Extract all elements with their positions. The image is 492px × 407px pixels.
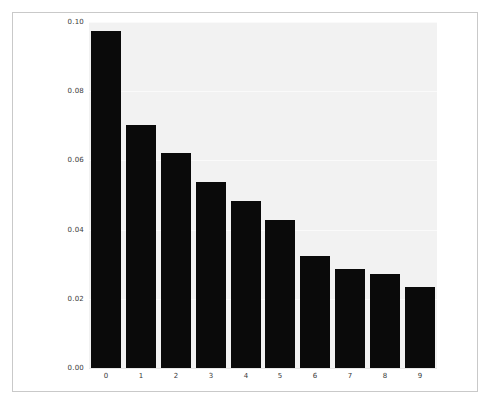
x-tick-label: 2 <box>161 372 191 380</box>
y-tick-label: 0.00 <box>68 364 84 372</box>
y-tick-label: 0.06 <box>68 156 84 164</box>
y-tick-label: 0.02 <box>68 295 84 303</box>
x-tick-label: 5 <box>265 372 295 380</box>
x-axis-spine <box>89 368 437 369</box>
bars-layer <box>89 22 437 368</box>
y-tick-label: 0.08 <box>68 87 84 95</box>
x-tick-label: 7 <box>335 372 365 380</box>
bar <box>265 220 295 368</box>
y-tick-label: 0.04 <box>68 226 84 234</box>
y-axis-tick-labels: 0.000.020.040.060.080.10 <box>56 22 84 368</box>
bar <box>126 125 156 368</box>
bar <box>300 256 330 368</box>
x-tick-label: 9 <box>405 372 435 380</box>
x-tick-label: 0 <box>91 372 121 380</box>
bar <box>231 201 261 368</box>
bar <box>196 182 226 368</box>
bar <box>370 274 400 368</box>
figure-root: 0.000.020.040.060.080.10 0123456789 <box>0 0 492 407</box>
plot-area <box>89 22 437 368</box>
x-tick-label: 1 <box>126 372 156 380</box>
bar <box>405 287 435 368</box>
x-axis-tick-labels: 0123456789 <box>89 370 437 384</box>
x-tick-label: 4 <box>231 372 261 380</box>
bar <box>335 269 365 368</box>
x-tick-label: 8 <box>370 372 400 380</box>
y-tick-label: 0.10 <box>68 18 84 26</box>
bar <box>161 153 191 368</box>
bar <box>91 31 121 368</box>
x-tick-label: 6 <box>300 372 330 380</box>
x-tick-label: 3 <box>196 372 226 380</box>
